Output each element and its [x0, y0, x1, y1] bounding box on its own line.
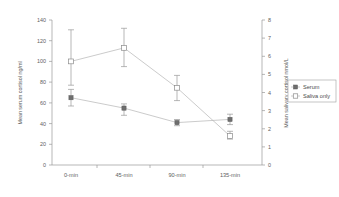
x-tick-label-1: 45-min	[115, 172, 132, 178]
right-tick-label-7: 7	[268, 35, 271, 41]
line-chart: 0 20 40 60 80 100 120 140 0 1 2 3 4 5	[0, 0, 339, 197]
data-point-serum-1	[122, 106, 126, 110]
left-tick-label-60: 60	[40, 100, 46, 106]
left-axis-ticks: 0 20 40 60 80 100 120 140	[37, 17, 52, 168]
left-tick-label-100: 100	[37, 58, 46, 64]
left-tick-label-80: 80	[40, 79, 46, 85]
right-axis-ticks: 0 1 2 3 4 5 6 7 8	[262, 17, 271, 168]
legend-label-saliva-only: Saliva only	[303, 93, 330, 99]
legend-marker-serum	[294, 85, 298, 89]
data-point-saliva-2	[175, 85, 180, 90]
series-saliva-only	[68, 28, 233, 139]
legend-item-serum[interactable]: Serum	[291, 84, 320, 90]
data-point-serum-3	[228, 117, 232, 121]
right-tick-label-4: 4	[268, 90, 271, 96]
left-tick-label-140: 140	[37, 17, 46, 23]
right-tick-label-8: 8	[268, 17, 271, 23]
right-tick-label-0: 0	[268, 162, 271, 168]
left-tick-label-120: 120	[37, 38, 46, 44]
right-tick-label-6: 6	[268, 53, 271, 59]
error-bar-saliva-0	[68, 30, 74, 85]
chart-legend: Serum Saliva only	[288, 80, 336, 102]
x-axis-ticks: 0-min 45-min 90-min 135-min	[64, 165, 240, 178]
legend-label-serum: Serum	[303, 84, 320, 90]
right-tick-label-3: 3	[268, 108, 271, 114]
right-tick-label-2: 2	[268, 126, 271, 132]
left-tick-label-20: 20	[40, 141, 46, 147]
x-tick-label-2: 90-min	[168, 172, 185, 178]
y-axis-title: Mean serum cortisol ng/ml	[17, 61, 23, 124]
left-tick-label-40: 40	[40, 121, 46, 127]
series-serum	[68, 89, 233, 125]
data-point-saliva-1	[122, 46, 127, 51]
right-tick-label-5: 5	[268, 71, 271, 77]
right-tick-label-1: 1	[268, 144, 271, 150]
data-point-serum-0	[69, 96, 73, 100]
data-point-saliva-3	[228, 134, 233, 139]
x-tick-label-0: 0-min	[64, 172, 78, 178]
legend-marker-saliva-only	[293, 94, 297, 98]
x-tick-label-3: 135-min	[220, 172, 240, 178]
data-point-serum-2	[175, 121, 179, 125]
legend-item-saliva-only[interactable]: Saliva only	[291, 93, 330, 99]
data-point-saliva-0	[69, 59, 74, 64]
chart-figure: 0 20 40 60 80 100 120 140 0 1 2 3 4 5	[0, 0, 339, 197]
left-tick-label-0: 0	[43, 162, 46, 168]
